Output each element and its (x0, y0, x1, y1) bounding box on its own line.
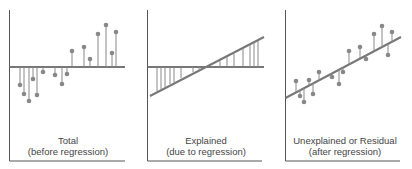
data-points (294, 24, 395, 105)
caption-residual-title: Unexplained or Residual (287, 135, 403, 146)
caption-residual-subtitle: (after regression) (287, 146, 403, 157)
caption-total-title: Total (12, 135, 124, 146)
caption-explained-title: Explained (150, 135, 262, 146)
caption-residual: Unexplained or Residual (after regressio… (287, 135, 403, 157)
data-points (18, 23, 119, 104)
caption-explained-subtitle: (due to regression) (150, 146, 262, 157)
deviation-stems (20, 25, 116, 101)
residual-stems (296, 26, 392, 102)
caption-total: Total (before regression) (12, 135, 124, 157)
caption-total-subtitle: (before regression) (12, 146, 124, 157)
caption-explained: Explained (due to regression) (150, 135, 262, 157)
